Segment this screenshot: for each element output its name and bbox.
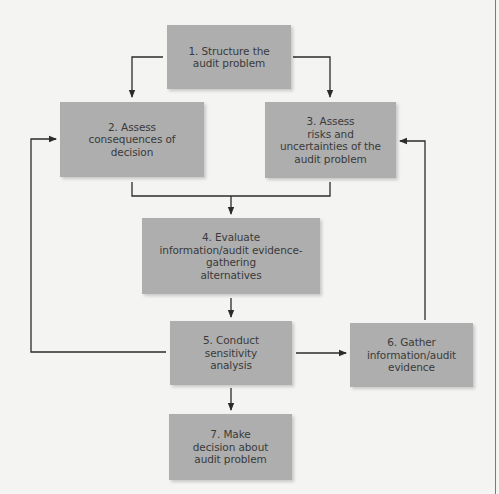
node-5-label: 5. Conduct sensitivity analysis — [203, 334, 259, 372]
node-2-label: 2. Assess consequences of decision — [89, 121, 176, 159]
node-7-label: 7. Make decision about audit problem — [193, 428, 269, 466]
edge-2-merge — [132, 182, 330, 196]
edge-6-to-3 — [400, 141, 425, 320]
node-6-gather-evidence: 6. Gather information/audit evidence — [350, 323, 473, 387]
node-6-label: 6. Gather information/audit evidence — [367, 336, 456, 374]
node-7-make-decision: 7. Make decision about audit problem — [169, 414, 292, 480]
node-3-assess-risks: 3. Assess risks and uncertainties of the… — [265, 102, 396, 178]
node-3-label: 3. Assess risks and uncertainties of the… — [280, 115, 381, 165]
node-5-sensitivity-analysis: 5. Conduct sensitivity analysis — [170, 321, 292, 385]
node-1-structure-problem: 1. Structure the audit problem — [167, 25, 291, 89]
node-2-assess-consequences: 2. Assess consequences of decision — [60, 102, 204, 177]
edge-1-to-3 — [293, 57, 330, 97]
node-1-label: 1. Structure the audit problem — [188, 45, 269, 70]
node-4-evaluate-alternatives: 4. Evaluate information/audit evidence- … — [142, 218, 320, 294]
node-4-label: 4. Evaluate information/audit evidence- … — [160, 231, 303, 281]
edge-1-to-2 — [132, 57, 163, 97]
